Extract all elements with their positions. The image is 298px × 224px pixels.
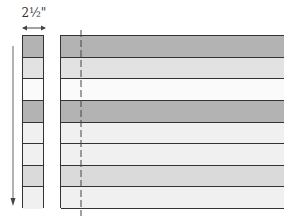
- panel-row: [61, 144, 284, 166]
- strip-row: [23, 123, 43, 145]
- strip-row: [23, 58, 43, 80]
- strip-row: [23, 101, 43, 123]
- panel-row: [61, 79, 284, 101]
- panel-row: [61, 101, 284, 123]
- strip-row: [23, 36, 43, 58]
- direction-arrow-icon: [10, 46, 16, 206]
- dashed-cut-line: [80, 30, 82, 216]
- cut-strip-segment: [22, 35, 44, 208]
- panel-row: [61, 123, 284, 145]
- width-measurement-label: 2½": [20, 6, 48, 20]
- strip-row: [23, 79, 43, 101]
- panel-row: [61, 187, 284, 209]
- strip-row: [23, 166, 43, 188]
- panel-row: [61, 58, 284, 80]
- strip-set-panel: [60, 35, 284, 208]
- panel-row: [61, 166, 284, 188]
- strip-row: [23, 187, 43, 209]
- width-dimension-arrow-icon: [22, 25, 46, 31]
- strip-row: [23, 144, 43, 166]
- panel-row: [61, 36, 284, 58]
